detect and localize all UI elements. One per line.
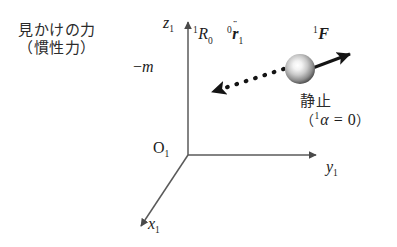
angular-accel-symbol: α: [320, 111, 329, 128]
apparent-force-line-1: 見かけの力: [18, 22, 96, 40]
y-axis-subscript: 1: [333, 168, 338, 178]
minus-sign: −: [133, 58, 142, 75]
frame-rotation-symbol: R: [198, 25, 208, 42]
particle-sphere: [285, 54, 315, 84]
frame-rotation-label: 1R0: [193, 25, 213, 44]
physics-diagram-figure: 見かけの力 （慣性力） −m z1 1R0 0¨r1 1F O1 y1 x1 静…: [0, 0, 397, 247]
double-dot-accent: ¨: [233, 19, 237, 30]
acceleration-vector-label: 0¨r1: [227, 25, 243, 44]
rest-equation: = 0: [334, 111, 357, 128]
x-axis-label: x1: [148, 215, 160, 234]
rest-paren-close: ）: [356, 112, 371, 128]
rest-paren-open: （: [300, 112, 315, 128]
rest-state-line-2: （1α = 0）: [300, 111, 371, 130]
z-axis-subscript: 1: [169, 24, 174, 34]
x-axis-subscript: 1: [155, 225, 160, 235]
origin-symbol: O: [153, 139, 165, 156]
acceleration-symbol-wrap: ¨r: [232, 25, 238, 44]
rest-presuperscript: 1: [315, 111, 320, 121]
origin-subscript: 1: [165, 149, 170, 159]
applied-force-symbol: F: [318, 25, 329, 42]
apparent-force-line-2: （慣性力）: [18, 40, 96, 58]
apparent-force-caption: 見かけの力 （慣性力）: [18, 22, 96, 57]
rest-state-line-1: 静止: [300, 93, 371, 111]
y-axis-label: y1: [326, 158, 338, 177]
acceleration-subscript: 1: [238, 36, 243, 46]
applied-force-label: 1F: [313, 25, 329, 44]
rest-state-caption: 静止 （1α = 0）: [300, 93, 371, 130]
frame-rotation-subscript: 0: [208, 36, 213, 46]
acceleration-presuperscript: 0: [227, 25, 232, 35]
minus-mass-label: −m: [133, 58, 154, 77]
inertial-force-dotted-line: [212, 66, 293, 92]
z-axis-label: z1: [163, 14, 174, 33]
origin-label: O1: [153, 139, 169, 158]
mass-symbol: m: [142, 58, 154, 75]
